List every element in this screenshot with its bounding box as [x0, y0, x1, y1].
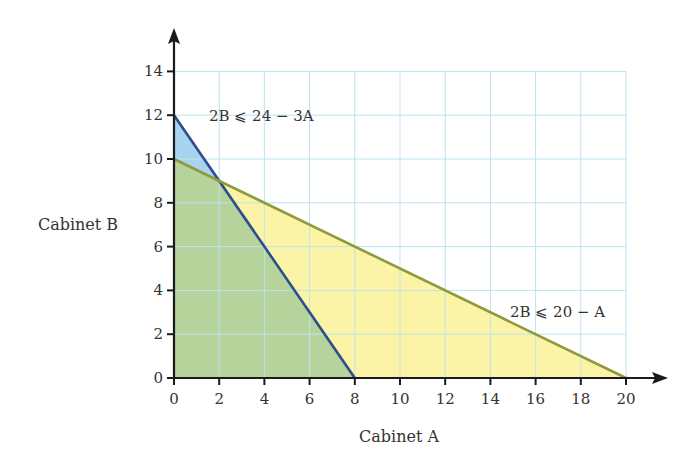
y-axis-ticks: 02468101214: [144, 62, 174, 387]
constraint-label-1: 2B ⩽ 24 − 3A: [209, 107, 314, 125]
constraint-label-2: 2B ⩽ 20 − A: [510, 303, 605, 321]
x-tick-label: 8: [350, 390, 360, 408]
lp-chart: 02468101214161820 02468101214 2B ⩽ 24 − …: [0, 0, 693, 464]
x-tick-label: 12: [436, 390, 455, 408]
y-tick-label: 6: [153, 238, 163, 256]
y-tick-label: 12: [144, 106, 163, 124]
x-tick-label: 0: [169, 390, 179, 408]
x-tick-label: 18: [571, 390, 590, 408]
y-tick-label: 10: [144, 150, 163, 168]
x-tick-label: 2: [214, 390, 224, 408]
y-tick-label: 14: [144, 62, 163, 80]
x-tick-label: 14: [481, 390, 500, 408]
y-axis-title: Cabinet B: [38, 215, 118, 234]
x-axis-title: Cabinet A: [359, 427, 439, 446]
y-tick-label: 2: [153, 325, 163, 343]
x-tick-label: 4: [260, 390, 270, 408]
x-tick-label: 16: [526, 390, 545, 408]
x-tick-label: 10: [390, 390, 409, 408]
y-tick-label: 8: [153, 194, 163, 212]
y-tick-label: 0: [153, 369, 163, 387]
x-tick-label: 6: [305, 390, 315, 408]
x-axis-ticks: 02468101214161820: [169, 378, 635, 408]
x-tick-label: 20: [616, 390, 635, 408]
y-tick-label: 4: [153, 281, 163, 299]
